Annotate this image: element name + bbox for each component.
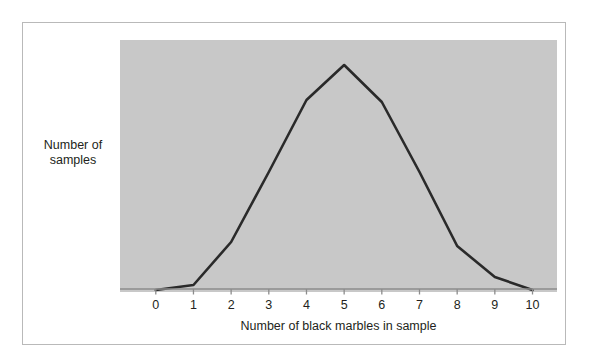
x-tick-label-10: 10 (513, 297, 553, 313)
y-axis-title-line-1: Number of (30, 138, 116, 153)
x-axis-title: Number of black marbles in sample (120, 318, 557, 334)
x-tick-label-5: 5 (324, 297, 364, 313)
chart-stage: 012345678910 Number of black marbles in … (0, 0, 590, 364)
x-tick-label-8: 8 (437, 297, 477, 313)
x-tick-label-4: 4 (286, 297, 326, 313)
x-tick-label-group: 012345678910 (120, 297, 557, 315)
x-tick-mark-group (156, 289, 533, 295)
x-tick-label-3: 3 (249, 297, 289, 313)
y-axis-title: Number of samples (30, 138, 116, 168)
x-tick-label-0: 0 (136, 297, 176, 313)
x-tick-label-9: 9 (475, 297, 515, 313)
x-tick-label-2: 2 (211, 297, 251, 313)
x-tick-label-7: 7 (400, 297, 440, 313)
x-tick-label-1: 1 (173, 297, 213, 313)
y-axis-title-line-2: samples (30, 153, 116, 168)
figure-root: 012345678910 Number of black marbles in … (0, 0, 590, 364)
data-series-line-chart (120, 40, 557, 292)
bell-curve-polyline (156, 65, 533, 290)
x-tick-label-6: 6 (362, 297, 402, 313)
